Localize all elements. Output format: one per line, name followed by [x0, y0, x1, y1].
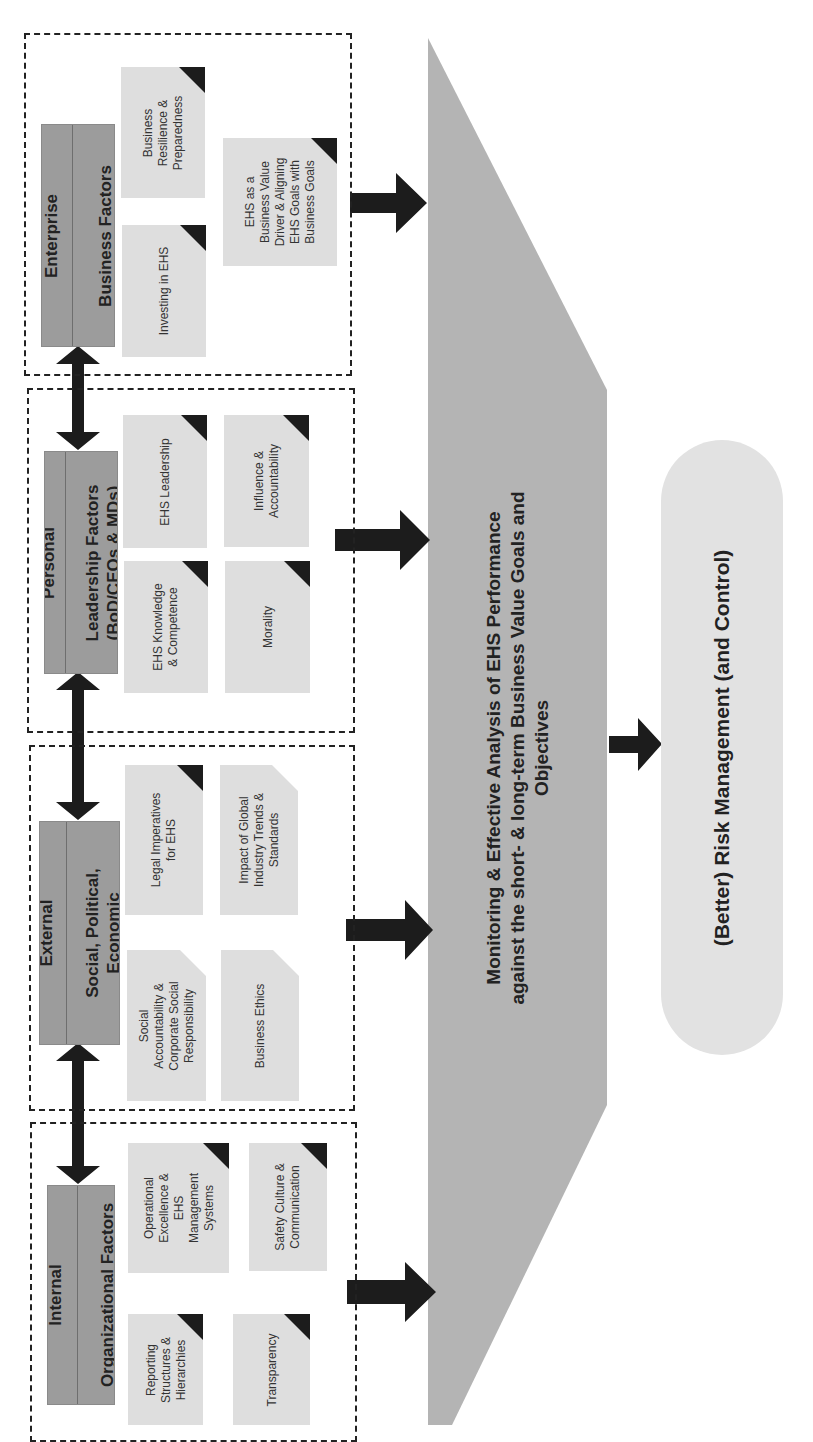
card-label: EHS Leadership	[158, 415, 173, 548]
card-influence-accountability: Influence & Accountability	[224, 415, 309, 547]
card-ehs-business-value: EHS as a Business Value Driver & Alignin…	[223, 138, 337, 266]
card-operational-excellence: Operational Excellence & EHS Management …	[128, 1143, 229, 1273]
section-header-internal: Internal Organizational Factors	[47, 1185, 115, 1405]
card-reporting-structures: Reporting Structures & Hierarchies	[128, 1314, 203, 1425]
central-block-text: Monitoring & Effective Analysis of EHS P…	[428, 390, 607, 1105]
card-morality: Morality	[225, 561, 310, 693]
card-label: Investing in EHS	[157, 225, 172, 357]
header-line2: Organizational Factors	[97, 1186, 116, 1404]
central-block-label: Monitoring & Effective Analysis of EHS P…	[482, 388, 554, 1108]
card-label: Safety Culture & Communication	[273, 1143, 303, 1271]
card-legal-imperatives: Legal Imperatives for EHS	[125, 765, 203, 915]
folded-corner-icon	[273, 950, 299, 976]
corner-marker-icon	[181, 415, 207, 441]
card-ehs-leadership: EHS Leadership	[123, 415, 207, 548]
corner-marker-icon	[177, 765, 203, 791]
folded-corner-icon	[180, 950, 206, 976]
card-label: EHS as a Business Value Driver & Alignin…	[243, 138, 318, 266]
card-label: Influence & Accountability	[252, 415, 282, 547]
card-business-resilience: Business Resilience & Preparedness	[121, 67, 205, 198]
section-header-personal: Personal Leadership Factors (BoD/CEOs & …	[44, 451, 118, 674]
card-social-accountability: Social Accountability & Corporate Social…	[127, 950, 206, 1101]
header-line1: Personal	[44, 452, 59, 673]
corner-marker-icon	[179, 67, 205, 93]
arrow-right-icon	[346, 900, 433, 960]
header-line2: Business Factors	[95, 125, 116, 346]
card-label: EHS Knowledge & Competence	[151, 561, 181, 693]
header-line2: Social, Political, Economic	[82, 822, 121, 1044]
card-label: Legal Imperatives for EHS	[149, 765, 179, 915]
arrow-right-icon	[350, 173, 427, 233]
card-label: Morality	[260, 561, 275, 693]
corner-marker-icon	[203, 1143, 229, 1169]
corner-marker-icon	[301, 1143, 327, 1169]
corner-marker-icon	[284, 1314, 310, 1340]
outcome-label: (Better) Risk Management (and Control)	[709, 440, 735, 1055]
card-impact-global-trends: Impact of Global Industry Trends & Stand…	[220, 765, 298, 915]
corner-marker-icon	[180, 225, 206, 251]
card-label: Transparency	[264, 1314, 279, 1425]
corner-marker-icon	[182, 561, 208, 587]
corner-marker-icon	[177, 1314, 203, 1340]
card-transparency: Transparency	[233, 1314, 310, 1425]
header-line1: Enterprise	[41, 125, 62, 346]
corner-marker-icon	[284, 561, 310, 587]
card-ehs-knowledge: EHS Knowledge & Competence	[124, 561, 208, 693]
card-investing-in-ehs: Investing in EHS	[122, 225, 206, 357]
card-label: Business Ethics	[253, 950, 268, 1101]
section-header-enterprise: Enterprise Business Factors	[41, 124, 115, 347]
outcome-pill: (Better) Risk Management (and Control)	[661, 440, 783, 1055]
folded-corner-icon	[272, 765, 298, 791]
arrow-right-icon	[347, 1262, 436, 1322]
header-line1: Internal	[47, 1186, 66, 1404]
corner-marker-icon	[283, 415, 309, 441]
header-line2: Leadership Factors (BoD/CEOs & MDs)	[82, 452, 118, 673]
header-line1: External	[39, 822, 57, 1044]
arrow-right-icon	[609, 718, 662, 771]
card-safety-culture: Safety Culture & Communication	[249, 1143, 327, 1271]
card-business-ethics: Business Ethics	[221, 950, 299, 1101]
section-header-external: External Social, Political, Economic	[39, 821, 120, 1045]
corner-marker-icon	[311, 138, 337, 164]
